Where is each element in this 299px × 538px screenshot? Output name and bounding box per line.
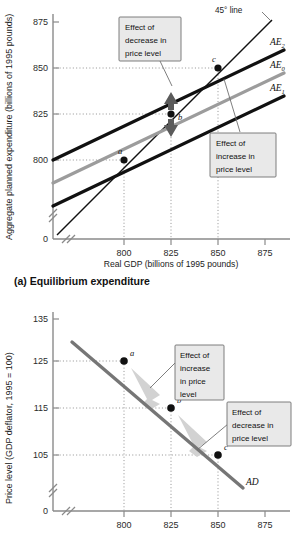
panel-b-point-a-label: a xyxy=(130,348,134,358)
panel-b-point-b xyxy=(167,404,175,412)
panel-a-point-b-label: b xyxy=(178,112,182,122)
panel-a-45-degree-label: 45° line xyxy=(215,6,243,15)
panel-b-label-ad: AD xyxy=(245,477,259,487)
panel-b-callout-increase-line4: level xyxy=(180,390,197,399)
panel-b-ytick-0: 0 xyxy=(43,506,48,516)
panel-b-callout-decrease-line2: decrease in xyxy=(232,421,273,430)
panel-a-xtick-825: 825 xyxy=(163,248,178,258)
panel-b-ytick-105: 105 xyxy=(33,450,48,460)
panel-a-x-axis-title: Real GDP (billions of 1995 pounds) xyxy=(104,259,239,269)
panel-a-point-a-label: a xyxy=(118,146,122,156)
panel-a-xtick-875: 875 xyxy=(257,248,272,258)
panel-a-label-ae0: AE0 xyxy=(269,60,286,72)
panel-a-ytick-875: 875 xyxy=(33,17,48,27)
panel-b-callout-increase: Effect of increase in price level xyxy=(175,345,224,400)
panel-a-ytick-800: 800 xyxy=(33,155,48,165)
panel-a-point-b xyxy=(167,110,174,117)
panel-a-callout-decrease: Effect of decrease in price level xyxy=(119,17,181,61)
panel-a-point-c xyxy=(214,64,221,71)
panel-a-callout-increase-line1: Effect of xyxy=(216,139,246,148)
panel-a-callout-decrease-line2: decrease in xyxy=(125,36,166,45)
panel-a-x-ticks: 800 825 850 875 xyxy=(116,239,272,258)
panel-b-xtick-850: 850 xyxy=(210,520,225,530)
panel-a-callout-increase-line2: increase in xyxy=(216,152,255,161)
panel-b-x-ticks: 800 825 850 875 xyxy=(116,511,272,530)
panel-b-point-c xyxy=(214,451,222,459)
panel-b-callout-decrease: Effect of decrease in price level xyxy=(227,402,291,446)
panel-a-callout-decrease-leader xyxy=(160,61,172,86)
panel-a-caption-wrap: (a) Equilibrium expenditure xyxy=(0,270,299,292)
panel-a-callout-increase-line3: price level xyxy=(216,165,252,174)
panel-b-point-a xyxy=(120,357,128,365)
panel-b-callout-increase-leader xyxy=(150,362,176,388)
panel-b-ytick-125: 125 xyxy=(33,356,48,366)
panel-b-callout-increase-line2: increase xyxy=(180,364,211,373)
panel-a-callout-increase: Effect of increase in price level xyxy=(210,133,276,177)
panel-b-callout-decrease-line3: price level xyxy=(232,434,268,443)
panel-b-chart: Price level (GDP deflator, 1995 = 100) 1… xyxy=(0,292,299,538)
panel-a-y-axis-title: Aggregate planned expenditure (billions … xyxy=(4,14,14,240)
panel-a-callout-decrease-line1: Effect of xyxy=(125,23,155,32)
panel-a-45-leader xyxy=(262,12,272,22)
panel-b-xtick-800: 800 xyxy=(116,520,131,530)
panel-a-xtick-800: 800 xyxy=(116,248,131,258)
panel-b-xtick-825: 825 xyxy=(163,520,178,530)
economics-figure: Aggregate planned expenditure (billions … xyxy=(0,0,299,538)
panel-a-y-ticks: 875 850 825 800 0 xyxy=(33,17,59,244)
panel-a-caption: (a) Equilibrium expenditure xyxy=(14,275,150,287)
panel-a-label-ae2: AE2 xyxy=(269,37,286,49)
panel-b-callout-increase-line3: in price xyxy=(180,377,206,386)
panel-b-callout-increase-line1: Effect of xyxy=(180,351,210,360)
panel-a-ytick-0: 0 xyxy=(43,234,48,244)
panel-b-xtick-875: 875 xyxy=(257,520,272,530)
panel-a-ytick-850: 850 xyxy=(33,63,48,73)
panel-a-ytick-825: 825 xyxy=(33,109,48,119)
panel-a-label-ae1: AE1 xyxy=(269,83,285,95)
panel-a-callout-decrease-line3: price level xyxy=(125,49,161,58)
panel-b-y-axis-title: Price level (GDP deflator, 1995 = 100) xyxy=(4,352,14,504)
panel-b-callout-decrease-line1: Effect of xyxy=(232,408,262,417)
panel-a-point-a xyxy=(120,156,127,163)
panel-b-ytick-115: 115 xyxy=(34,403,48,413)
panel-a-point-c-label: c xyxy=(212,54,216,64)
panel-b-ytick-135: 135 xyxy=(33,314,48,324)
panel-a-xtick-850: 850 xyxy=(210,248,225,258)
panel-a-chart: Aggregate planned expenditure (billions … xyxy=(0,0,299,270)
